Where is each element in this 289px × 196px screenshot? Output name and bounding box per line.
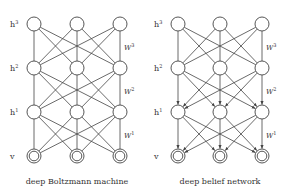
- hidden-unit-node: [27, 17, 41, 31]
- layer-h3: h3: [154, 17, 269, 31]
- layer-h2: h2: [154, 61, 269, 75]
- hidden-unit-node: [171, 61, 185, 75]
- hidden-unit-node: [113, 17, 127, 31]
- layer-label-h2: h2: [10, 63, 18, 73]
- layer-label-h1: h1: [154, 107, 162, 117]
- weight-label-w3: W3: [266, 42, 276, 52]
- layer-label-h1: h1: [10, 107, 18, 117]
- edges: [178, 27, 262, 152]
- deep-boltzmann-machine-diagram: h3h2h1vW3W2W1: [9, 17, 134, 163]
- hidden-unit-node: [255, 17, 269, 31]
- visible-unit-inner-ring: [215, 151, 225, 161]
- hidden-unit-node: [113, 105, 127, 119]
- weight-label-w2: W2: [124, 86, 134, 96]
- hidden-unit-node: [213, 61, 227, 75]
- weight-label-w3: W3: [124, 42, 134, 52]
- hidden-unit-node: [213, 17, 227, 31]
- hidden-unit-node: [70, 61, 84, 75]
- layer-h2: h2: [10, 61, 127, 75]
- visible-unit-inner-ring: [29, 151, 39, 161]
- hidden-unit-node: [255, 105, 269, 119]
- deep-belief-network-diagram: h3h2h1vW3W2W1: [153, 17, 276, 163]
- hidden-unit-node: [213, 105, 227, 119]
- layer-h3: h3: [10, 17, 127, 31]
- visible-unit-inner-ring: [115, 151, 125, 161]
- diagram-canvas: h3h2h1vW3W2W1 h3h2h1vW3W2W1 deep Boltzma…: [0, 0, 289, 196]
- layer-label-h3: h3: [10, 19, 18, 29]
- visible-unit-inner-ring: [72, 151, 82, 161]
- hidden-unit-node: [255, 61, 269, 75]
- caption-deep-boltzmann-machine: deep Boltzmann machine: [26, 177, 129, 186]
- layer-label-v: v: [153, 152, 159, 161]
- layer-v: v: [153, 149, 269, 163]
- layer-h1: h1: [154, 105, 269, 119]
- edges: [34, 27, 120, 153]
- hidden-unit-node: [113, 61, 127, 75]
- layer-h1: h1: [10, 105, 127, 119]
- layer-label-v: v: [9, 152, 15, 161]
- weight-label-w1: W1: [266, 130, 276, 140]
- layer-label-h3: h3: [154, 19, 162, 29]
- visible-unit-inner-ring: [257, 151, 267, 161]
- hidden-unit-node: [27, 105, 41, 119]
- hidden-unit-node: [171, 17, 185, 31]
- visible-unit-inner-ring: [173, 151, 183, 161]
- weight-label-w1: W1: [124, 130, 134, 140]
- hidden-unit-node: [70, 105, 84, 119]
- layer-v: v: [9, 149, 127, 163]
- hidden-unit-node: [27, 61, 41, 75]
- caption-deep-belief-network: deep belief network: [180, 177, 261, 186]
- weight-label-w2: W2: [266, 86, 276, 96]
- hidden-unit-node: [171, 105, 185, 119]
- layer-label-h2: h2: [154, 63, 162, 73]
- hidden-unit-node: [70, 17, 84, 31]
